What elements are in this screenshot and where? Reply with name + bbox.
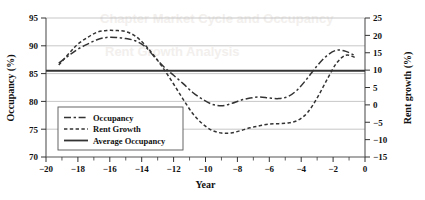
legend-label-occupancy: Occupancy <box>93 113 134 123</box>
xtick-label-neg4: −4 <box>296 164 306 174</box>
ytick-label-95: 95 <box>29 13 39 23</box>
ytick-label-70: 70 <box>29 152 39 162</box>
y2tick-label-neg10: −10 <box>373 135 388 145</box>
y2tick-label-15: 15 <box>373 48 383 58</box>
xtick-label-neg18: −18 <box>71 164 86 174</box>
y2tick-label-neg15: −15 <box>373 152 388 162</box>
ytick-label-80: 80 <box>29 97 39 107</box>
y-left-axis-title: Occupancy (%) <box>5 55 17 122</box>
watermark-line-1: Chapter Market Cycle and Occupancy <box>100 11 334 26</box>
xtick-label-neg16: −16 <box>103 164 118 174</box>
xtick-label-neg10: −10 <box>198 164 213 174</box>
y2tick-label-neg5: −5 <box>373 118 383 128</box>
xtick-label-neg6: −6 <box>264 164 274 174</box>
y2tick-label-25: 25 <box>373 13 383 23</box>
xtick-label-neg12: −12 <box>167 164 182 174</box>
ytick-label-85: 85 <box>29 69 39 79</box>
ytick-label-75: 75 <box>29 125 39 135</box>
xtick-label-neg8: −8 <box>233 164 243 174</box>
legend[interactable]: Occupancy Rent Growth Average Occupancy <box>58 107 183 150</box>
ytick-label-90: 90 <box>29 41 39 51</box>
chart-container: Chapter Market Cycle and Occupancy Rent … <box>0 0 425 200</box>
y2tick-label-10: 10 <box>373 65 383 75</box>
xtick-label-neg20: −20 <box>39 164 54 174</box>
legend-label-average-occupancy: Average Occupancy <box>93 136 166 146</box>
xtick-label-neg2: −2 <box>328 164 338 174</box>
y2tick-label-20: 20 <box>373 31 383 41</box>
y-right-axis-title: Rent growth (%) <box>402 52 414 125</box>
y2tick-label-5: 5 <box>373 83 378 93</box>
watermark-line-2: Rent Growth Analysis <box>105 44 240 59</box>
x-axis-title: Year <box>196 179 217 190</box>
legend-label-rent-growth: Rent Growth <box>93 124 141 134</box>
occupancy-rent-growth-chart: Chapter Market Cycle and Occupancy Rent … <box>0 0 425 200</box>
xtick-label-neg14: −14 <box>135 164 150 174</box>
y2tick-label-0: 0 <box>373 100 378 110</box>
xtick-label-0: 0 <box>363 164 368 174</box>
